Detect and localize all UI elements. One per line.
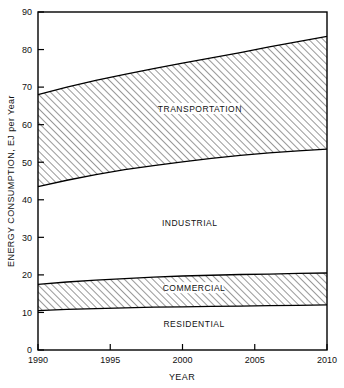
y-tick-label: 60 — [22, 120, 32, 130]
y-tick-label: 70 — [22, 82, 32, 92]
band-label-transportation: TRANSPORTATION — [158, 104, 242, 114]
x-axis-title: YEAR — [169, 372, 195, 382]
x-tick-label: 2005 — [245, 355, 265, 365]
y-tick-label: 50 — [22, 158, 32, 168]
chart-canvas: 0102030405060708090 19901995200020052010… — [0, 0, 344, 388]
y-tick-label: 10 — [22, 308, 32, 318]
band-label-commercial: COMMERCIAL — [163, 283, 226, 293]
x-tick-label: 2000 — [172, 355, 192, 365]
y-tick-label: 0 — [27, 345, 32, 355]
y-axis-title: ENERGY CONSUMPTION, EJ per Year — [6, 95, 16, 267]
y-tick-label: 20 — [22, 270, 32, 280]
x-tick-label: 1990 — [28, 355, 48, 365]
x-tick-label: 2010 — [317, 355, 337, 365]
y-tick-label: 30 — [22, 233, 32, 243]
y-tick-label: 90 — [22, 7, 32, 17]
y-tick-label: 80 — [22, 45, 32, 55]
band-label-industrial: INDUSTRIAL — [162, 218, 218, 228]
y-tick-label: 40 — [22, 195, 32, 205]
energy-consumption-area-chart: 0102030405060708090 19901995200020052010… — [0, 0, 344, 388]
band-label-residential: RESIDENTIAL — [163, 319, 224, 329]
x-tick-label: 1995 — [100, 355, 120, 365]
